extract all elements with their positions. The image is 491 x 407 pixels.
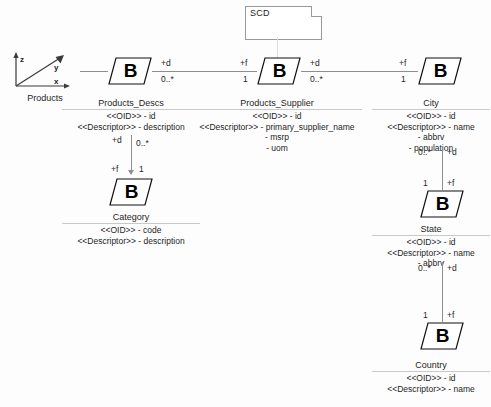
class-products-supplier[interactable]: Products_Supplier <<OID>> - id <<Descrip… <box>192 98 362 153</box>
class-attribute: <<OID>> - id <box>62 111 200 122</box>
mult-city-to-state-source-mult: 0..* <box>418 147 431 157</box>
link-state-to-country <box>442 262 443 322</box>
mult-descs-to-supplier-source-mult: 0..* <box>161 74 174 84</box>
fact-icon-city[interactable]: B <box>418 57 462 85</box>
link-descs-to-category-arrow <box>128 170 134 175</box>
class-attribute: <<Descriptor>> - name <box>372 248 490 259</box>
scd-note[interactable]: SCD <box>245 6 322 40</box>
class-attribute: - population <box>372 143 490 154</box>
link-city-to-state <box>442 146 443 190</box>
class-products-descs[interactable]: Products_Descs <<OID>> - id <<Descriptor… <box>62 98 200 132</box>
mult-state-to-country-target-mult: 1 <box>423 310 428 320</box>
class-attribute: - abbrv <box>372 258 490 269</box>
mult-state-to-country-target-role: +f <box>447 310 454 320</box>
mult-city-to-state-source-role: +d <box>447 147 457 157</box>
class-name: Category <box>62 212 200 223</box>
mult-state-to-country-source-role: +d <box>447 263 457 273</box>
fact-letter: B <box>109 178 153 206</box>
class-attribute: - uom <box>192 143 362 154</box>
mult-descs-to-category-target-mult: 1 <box>139 164 144 174</box>
class-name-separator <box>62 223 200 224</box>
mult-descs-to-supplier-target-role: +f <box>240 58 247 68</box>
mult-supplier-to-city-source-mult: 0..* <box>310 74 323 84</box>
class-attribute: <<Descriptor>> - description <box>62 236 200 247</box>
svg-text:y: y <box>54 63 59 72</box>
class-name-separator <box>372 235 490 236</box>
fact-letter: B <box>108 57 152 85</box>
class-attribute: <<OID>> - id <box>372 373 490 384</box>
class-city[interactable]: City <<OID>> - id <<Descriptor>> - name … <box>372 98 490 153</box>
class-name-separator <box>192 109 362 110</box>
class-attribute: - msrp <box>192 132 362 143</box>
class-name: City <box>372 98 490 109</box>
svg-text:z: z <box>20 55 24 64</box>
link-descs-to-category <box>131 135 132 173</box>
class-name: State <box>372 224 490 235</box>
class-state[interactable]: State <<OID>> - id <<Descriptor>> - name… <box>372 224 490 269</box>
mult-descs-to-category-target-role: +f <box>111 164 118 174</box>
mult-supplier-to-city-target-mult: 1 <box>401 74 406 84</box>
class-attribute: - abbrv <box>372 132 490 143</box>
class-category[interactable]: Category <<OID>> - code <<Descriptor>> -… <box>62 212 200 246</box>
class-attribute: <<Descriptor>> - name <box>372 122 490 133</box>
axes-svg: z y x <box>10 46 80 92</box>
fact-letter: B <box>420 190 464 218</box>
mult-descs-to-supplier-source-role: +d <box>161 58 171 68</box>
class-name-separator <box>372 109 490 110</box>
link-supplier-to-city <box>301 71 418 72</box>
fact-letter: B <box>420 322 464 350</box>
fact-icon-category[interactable]: B <box>109 178 153 206</box>
class-attribute: <<OID>> - id <box>372 237 490 248</box>
mult-supplier-to-city-target-role: +f <box>399 58 406 68</box>
mult-descs-to-category-source-role: +d <box>112 135 122 145</box>
class-name-separator <box>62 109 200 110</box>
note-label: SCD <box>250 8 270 18</box>
mult-city-to-state-target-role: +f <box>447 178 454 188</box>
class-attribute: <<Descriptor>> - primary_supplier_name <box>192 122 362 133</box>
class-attribute: <<Descriptor>> - description <box>62 122 200 133</box>
class-attribute: <<OID>> - id <box>372 111 490 122</box>
fact-letter: B <box>418 57 462 85</box>
mult-city-to-state-target-mult: 1 <box>423 178 428 188</box>
products-axes-icon: z y x <box>10 46 80 92</box>
mult-descs-to-supplier-target-mult: 1 <box>243 74 248 84</box>
mult-supplier-to-city-source-role: +d <box>310 58 320 68</box>
fact-icon-country[interactable]: B <box>420 322 464 350</box>
link-products-to-descs <box>80 71 108 72</box>
fact-letter: B <box>257 57 301 85</box>
fact-icon-state[interactable]: B <box>420 190 464 218</box>
fact-icon-products-descs[interactable]: B <box>108 57 152 85</box>
uml-diagram-canvas: SCD z y x Products B +d 0..* +f 1 <box>0 0 491 407</box>
fact-icon-products-supplier[interactable]: B <box>257 57 301 85</box>
svg-text:x: x <box>54 77 59 86</box>
class-name: Products_Descs <box>62 98 200 109</box>
class-name: Country <box>372 360 490 371</box>
note-fold-corner <box>311 6 322 17</box>
link-descs-to-supplier <box>152 71 257 72</box>
class-country[interactable]: Country <<OID>> - id <<Descriptor>> - na… <box>372 360 490 394</box>
mult-state-to-country-source-mult: 0..* <box>418 263 431 273</box>
class-name: Products_Supplier <box>192 98 362 109</box>
class-attribute: <<OID>> - id <box>192 111 362 122</box>
class-attribute: <<Descriptor>> - name <box>372 384 490 395</box>
class-name-separator <box>372 371 490 372</box>
mult-descs-to-category-source-mult: 0..* <box>136 138 149 148</box>
class-attribute: <<OID>> - code <box>62 225 200 236</box>
